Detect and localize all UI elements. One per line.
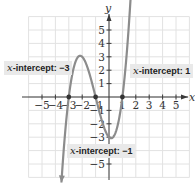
annotation-text: -intercept: −3	[13, 63, 70, 73]
y-tick-label: −5	[90, 158, 105, 170]
annotation-text: -intercept: −1	[76, 146, 133, 156]
annotation-x-intercept-neg1: x-intercept: −1	[67, 144, 135, 158]
annotation-x-intercept-neg3: x-intercept: −3	[4, 61, 72, 75]
intercept-point	[66, 95, 71, 100]
y-tick-label: 1	[98, 77, 105, 89]
intercept-point	[120, 95, 125, 100]
y-tick-label: 2	[98, 64, 105, 76]
y-tick-label: −3	[90, 131, 105, 143]
y-axis-arrow-icon	[107, 14, 112, 21]
annotation-x-intercept-1: x-intercept: 1	[130, 64, 193, 78]
y-tick-label: 4	[98, 37, 105, 49]
annotation-text: -intercept: 1	[139, 66, 191, 76]
x-tick-label: 2	[132, 99, 139, 111]
x-tick-label: 5	[173, 99, 180, 111]
x-tick-label: 3	[146, 99, 153, 111]
curve-arrow-down-icon	[59, 175, 65, 182]
cubic-function-graph: x y −5−4−3−2−11234554321−1−2−3−5	[0, 0, 195, 187]
intercept-point	[93, 95, 98, 100]
x-axis-label: x	[189, 91, 195, 104]
x-tick-label: 4	[159, 99, 166, 111]
y-tick-label: 3	[98, 51, 105, 63]
x-axis-arrow-icon	[181, 95, 188, 100]
y-tick-label: 5	[98, 24, 105, 36]
y-axis-label: y	[104, 2, 112, 15]
